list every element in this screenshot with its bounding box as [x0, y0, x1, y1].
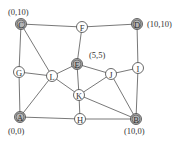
edges-group [19, 24, 138, 119]
edge-a-h [20, 117, 80, 119]
coordinate-label: (5,5) [89, 50, 105, 60]
node-label: G [16, 68, 22, 78]
node-label: A [17, 113, 24, 123]
node-d: D [132, 19, 143, 30]
node-i: I [133, 63, 144, 74]
node-j: J [106, 69, 117, 80]
node-label: D [134, 20, 140, 30]
node-label: C [18, 20, 24, 30]
node-f: F [77, 22, 88, 33]
graph-diagram: CFDGLEJIKAHB (0,10)(10,10)(5,5)(0,0)(10,… [0, 0, 188, 141]
coordinate-label: (10,10) [147, 19, 172, 29]
node-label: I [137, 64, 140, 74]
coordinate-label: (0,0) [8, 126, 24, 136]
coordinate-label: (0,10) [8, 7, 29, 17]
node-k: K [74, 90, 85, 101]
edge-k-b [79, 95, 136, 119]
node-label: F [80, 23, 85, 33]
node-label: B [133, 115, 139, 125]
node-label: L [49, 72, 54, 82]
node-b: B [131, 114, 142, 125]
node-l: L [47, 71, 58, 82]
node-h: H [75, 114, 86, 125]
edge-l-a [20, 76, 52, 117]
coordinate-label: (10,0) [124, 126, 145, 136]
node-label: K [76, 91, 83, 101]
edge-f-d [82, 24, 137, 27]
node-c: C [16, 19, 27, 30]
edge-c-g [19, 24, 21, 72]
node-a: A [15, 112, 26, 123]
edge-c-l [21, 24, 52, 76]
edge-j-b [111, 74, 136, 119]
edge-g-a [19, 72, 20, 117]
edge-c-f [21, 24, 82, 27]
edge-d-i [137, 24, 138, 68]
node-e: E [72, 59, 83, 70]
node-label: E [74, 60, 79, 70]
node-label: H [77, 115, 83, 125]
node-g: G [14, 67, 25, 78]
edge-i-b [136, 68, 138, 119]
